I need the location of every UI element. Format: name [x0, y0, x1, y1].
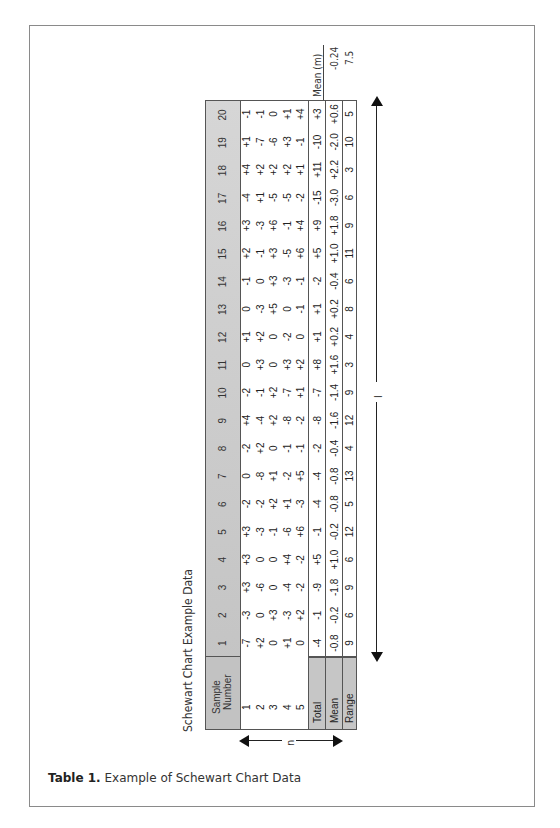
total-cell: +5: [309, 546, 325, 574]
range-cell: 9: [343, 573, 356, 601]
data-cell: 0: [267, 629, 281, 657]
grand-mean-divider: [323, 45, 324, 100]
mean-cell: +1.6: [326, 351, 342, 379]
data-cell: -3: [254, 212, 268, 240]
data-cell: 0: [240, 351, 254, 379]
mean-cell: -1.6: [326, 406, 342, 434]
total-cell: +11: [309, 156, 325, 184]
range-cell: 3: [343, 156, 356, 184]
data-cell: -4: [240, 184, 254, 212]
table-data-rows: 1-7-3+3+3+3-20-2+4-20+10-1+2+3-4+4+1-12+…: [240, 100, 308, 730]
mean-cell: +0.2: [326, 295, 342, 323]
sample-number-cell: 15: [205, 240, 240, 268]
range-cell: 13: [343, 462, 356, 490]
data-cell: -1: [294, 267, 308, 295]
sample-number-cell: 10: [205, 379, 240, 407]
mean-cell: -0.8: [326, 490, 342, 518]
total-cell: +8: [309, 351, 325, 379]
data-cell: 0: [267, 351, 281, 379]
data-cell: 0: [254, 546, 268, 574]
sample-number-cell: 3: [205, 574, 240, 602]
data-cell: -1: [254, 239, 268, 267]
data-cell: -1: [240, 267, 254, 295]
mean-cell: -1.8: [326, 573, 342, 601]
data-cell: +2: [267, 156, 281, 184]
grand-mean-label: Mean (m): [312, 54, 323, 97]
total-row: Total -4-1-9+5-1-4-4-2-8-7+8+1+1-2+5+9-1…: [308, 100, 325, 730]
sample-number-cell: 20: [205, 101, 240, 129]
data-cell: -2: [240, 379, 254, 407]
data-cell: -1: [267, 518, 281, 546]
sample-number-cell: 18: [205, 157, 240, 185]
total-cell: +3: [309, 100, 325, 128]
total-cell: -2: [309, 434, 325, 462]
table-title: Schewart Chart Example Data: [181, 569, 195, 732]
label-divider-bottom: [308, 656, 357, 657]
sample-number-cell: 12: [205, 323, 240, 351]
arrow-up-icon: [371, 96, 383, 106]
total-cell: -2: [309, 267, 325, 295]
data-cell: -6: [281, 518, 295, 546]
data-cell: -2: [294, 546, 308, 574]
data-cell: -4: [281, 573, 295, 601]
sample-number-cell: 17: [205, 184, 240, 212]
data-cell: -7: [281, 379, 295, 407]
data-cell: -2: [240, 434, 254, 462]
data-cell: 0: [281, 295, 295, 323]
data-cell: -2: [281, 323, 295, 351]
data-cell: +4: [294, 212, 308, 240]
l-arrow-gap: [372, 382, 382, 402]
mean-cell: +1.8: [326, 212, 342, 240]
table-row: 50+2-2-2+6-3+5-1-2+1+20-1-1+6+4-2+1-1+4: [294, 100, 308, 730]
range-cell: 6: [343, 267, 356, 295]
mean-cell: +1.0: [326, 546, 342, 574]
range-cell: 4: [343, 323, 356, 351]
range-cell: 6: [343, 546, 356, 574]
data-cell: +5: [267, 295, 281, 323]
data-cell: -3: [254, 518, 268, 546]
sample-number-cell: 13: [205, 296, 240, 324]
mean-cell: -3.0: [326, 184, 342, 212]
total-cell: -1: [309, 601, 325, 629]
data-cell: +2: [240, 239, 254, 267]
data-cell: +4: [240, 156, 254, 184]
mean-row: Mean -0.8-0.2-1.8+1.0-0.2-0.8-0.8-0.4-1.…: [325, 100, 342, 730]
schewart-table: Sample Number 12345678910111213141516171…: [205, 100, 357, 730]
label-divider-top: [205, 656, 240, 657]
data-cell: -4: [254, 406, 268, 434]
total-cell: -1: [309, 518, 325, 546]
sample-number-cell: 7: [205, 462, 240, 490]
data-cell: +1: [240, 323, 254, 351]
total-label: Total: [309, 657, 325, 730]
data-cell: +1: [254, 184, 268, 212]
total-cell: -15: [309, 184, 325, 212]
mean-cell: -2.0: [326, 128, 342, 156]
data-cell: -2: [254, 490, 268, 518]
data-cell: +3: [267, 601, 281, 629]
mean-cell: -0.4: [326, 434, 342, 462]
data-cell: -2: [294, 184, 308, 212]
data-cell: -3: [240, 601, 254, 629]
data-cell: 0: [294, 323, 308, 351]
sample-number-cell: 5: [205, 518, 240, 546]
sample-number-cell: 9: [205, 407, 240, 435]
mean-cell: -0.2: [326, 601, 342, 629]
table-row: 1-7-3+3+3+3-20-2+4-20+10-1+2+3-4+4+1-1: [240, 100, 254, 730]
data-cell: -3: [254, 295, 268, 323]
header-label-line2: Number: [222, 657, 233, 714]
data-cell: +3: [281, 351, 295, 379]
data-cell: +2: [267, 490, 281, 518]
range-cell: 12: [343, 406, 356, 434]
mean-label: Mean: [326, 657, 342, 730]
data-cell: +2: [254, 629, 268, 657]
mean-cell: +0.6: [326, 100, 342, 128]
data-cell: +3: [240, 518, 254, 546]
range-cell: 12: [343, 518, 356, 546]
table-header-row: Sample Number 12345678910111213141516171…: [205, 100, 240, 730]
data-cell: -6: [254, 573, 268, 601]
mean-cell: +1.0: [326, 239, 342, 267]
data-cell: +3: [281, 128, 295, 156]
sample-number-cell: 16: [205, 212, 240, 240]
data-cell: +6: [294, 518, 308, 546]
data-cell: +3: [254, 351, 268, 379]
